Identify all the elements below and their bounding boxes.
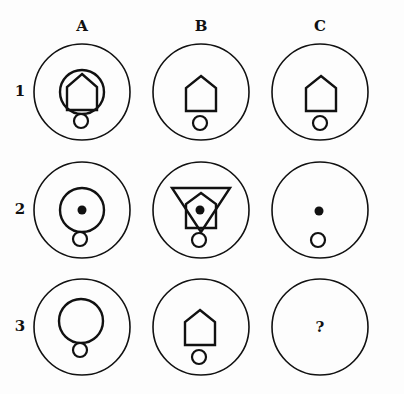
dot-icon [315,207,324,216]
pentagon-icon [67,74,97,110]
cell-2c [272,162,368,258]
row-label-3: 3 [15,317,25,335]
small-circle-icon [74,114,88,128]
question-mark: ? [316,318,325,336]
pentagon-icon [185,310,215,345]
cell-1b [153,44,249,140]
outer-circle [34,279,130,375]
large-circle-icon [59,299,103,343]
dot-icon [196,206,205,215]
small-circle-icon [73,232,87,246]
small-circle-icon [313,116,327,130]
cell-2a [34,162,130,258]
column-label-c: C [314,17,326,35]
small-circle-icon [192,233,206,247]
cell-3a [34,279,130,375]
small-circle-icon [193,116,207,130]
pentagon-icon [306,76,336,111]
pentagon-icon [186,76,216,111]
column-label-a: A [75,17,88,35]
cell-3c: ? [272,279,368,375]
column-label-b: B [195,17,208,35]
small-circle-icon [311,233,325,247]
cell-1a [34,44,130,140]
matrix-puzzle: A B C 1 2 3 [0,0,404,394]
small-circle-icon [192,350,206,364]
cell-3b [153,279,249,375]
cell-1c [272,44,368,140]
row-label-2: 2 [15,200,25,218]
dot-icon [78,206,87,215]
cell-2b [153,162,249,258]
row-label-1: 1 [15,82,25,100]
small-circle-icon [73,343,87,357]
